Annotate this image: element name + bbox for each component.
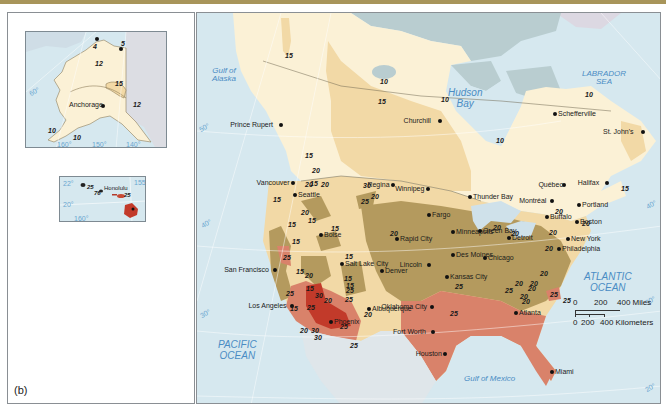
- city-dot: [273, 268, 277, 272]
- isoline-value: 15: [306, 285, 314, 292]
- isoline-value: 15: [621, 185, 629, 192]
- isoline-value: 15: [285, 52, 293, 59]
- isoline-value: 20: [305, 272, 313, 279]
- city-label: Fargo: [432, 211, 450, 218]
- isoline-value: 25: [283, 254, 291, 261]
- isoline-value: 20: [300, 327, 308, 334]
- city-label-honolulu: Honolulu: [104, 185, 128, 191]
- isoline-value: 10: [441, 96, 449, 103]
- isoline-value: 20: [321, 181, 329, 188]
- isoline-value: 25: [307, 304, 315, 311]
- isoline-value: 25: [455, 283, 463, 290]
- isoline-value: 25: [550, 291, 558, 298]
- city-dot: [483, 256, 487, 260]
- scale-km-0: 0: [573, 318, 577, 327]
- city-dot: [427, 263, 431, 267]
- city-label: San Francisco: [224, 266, 269, 273]
- city-label: Schefferville: [558, 110, 596, 117]
- isoline-value: 20: [371, 193, 379, 200]
- isoline-value: 25: [361, 198, 369, 205]
- hawaii-inset-map: 22° 20° 160° 155° 25 76 25 Honolulu: [59, 176, 146, 222]
- city-label: Vancouver: [257, 179, 290, 186]
- city-label: Prince Rupert: [230, 121, 273, 128]
- isoline-value: 10: [585, 91, 593, 98]
- isoline-value: 12: [95, 60, 103, 67]
- city-label: Los Angeles: [248, 302, 286, 309]
- isoline-value: 25: [450, 310, 458, 317]
- isoline-value: 30: [363, 182, 371, 189]
- isoline-value: 25: [286, 290, 294, 297]
- isoline-value: 15: [310, 180, 318, 187]
- city-label: Québec: [538, 181, 563, 188]
- city-dot: [443, 352, 447, 356]
- city-dot: [605, 181, 609, 185]
- isoline-value: 76: [94, 190, 101, 196]
- isoline-value: 20: [545, 245, 553, 252]
- isoline-value: 20: [364, 311, 372, 318]
- city-dot: [380, 269, 384, 273]
- city-dot: [553, 112, 557, 116]
- isoline-value: 20: [522, 298, 530, 305]
- isoline-value: 25: [87, 184, 94, 190]
- isoline-value: 25: [563, 297, 571, 304]
- city-label: St. John's: [603, 128, 634, 135]
- scale-miles-400: 400 Miles: [617, 298, 651, 307]
- city-dot: [431, 330, 435, 334]
- isoline-value: 15: [290, 305, 298, 312]
- city-label: Rapid City: [400, 235, 432, 242]
- isoline-value: 15: [344, 275, 352, 282]
- water-label-hudson-bay: HudsonBay: [448, 88, 482, 109]
- water-label-atlantic-ocean: ATLANTICOCEAN: [584, 272, 632, 293]
- isoline-value: 30: [314, 334, 322, 341]
- isoline-value: 20: [540, 270, 548, 277]
- city-label: Salt Lake City: [345, 260, 388, 267]
- isoline-value: 15: [273, 196, 281, 203]
- isoline-value: 15: [305, 152, 313, 159]
- isoline-value: 20: [582, 220, 590, 227]
- isoline-value: 25: [345, 296, 353, 303]
- scale-line-miles: [575, 310, 620, 311]
- isoline-value: 10: [496, 137, 504, 144]
- city-dot: [557, 247, 561, 251]
- isoline-value: 15: [378, 98, 386, 105]
- city-label: Montréal: [519, 197, 546, 204]
- city-dot: [550, 370, 554, 374]
- isoline-value: 20: [390, 230, 398, 237]
- city-dot: [319, 233, 323, 237]
- city-label: Thunder Bay: [473, 193, 513, 200]
- city-label: Miami: [555, 368, 574, 375]
- city-dot: [430, 305, 434, 309]
- isoline-value: 30: [311, 327, 319, 334]
- water-label-pacific-ocean: PACIFICOCEAN: [218, 340, 257, 361]
- water-label-gulf-of-mexico: Gulf of Mexico: [464, 375, 515, 383]
- isoline-value: 20: [324, 297, 332, 304]
- city-dot: [395, 237, 399, 241]
- longitude-label: 140°: [126, 141, 140, 148]
- isoline-value: 5: [121, 40, 125, 47]
- city-dot: [445, 275, 449, 279]
- isoline-value: 15: [331, 225, 339, 232]
- scale-miles-0: 0: [573, 298, 577, 307]
- city-label: Denver: [385, 267, 408, 274]
- longitude-label: 160°: [74, 215, 88, 222]
- isoline-value: 15: [308, 217, 316, 224]
- scale-tick: [575, 310, 576, 317]
- isoline-value: 15: [115, 80, 123, 87]
- isoline-value: 25: [346, 287, 354, 294]
- isoline-value: 20: [515, 280, 523, 287]
- city-dot: [119, 47, 123, 51]
- city-dot: [279, 123, 283, 127]
- isoline-value: 25: [124, 192, 131, 198]
- isoline-value: 20: [301, 209, 309, 216]
- city-label-anchorage: Anchorage: [69, 101, 103, 108]
- city-label: Halifax: [578, 179, 599, 186]
- panel-label: (b): [14, 384, 27, 396]
- city-dot: [426, 187, 430, 191]
- city-dot: [427, 213, 431, 217]
- city-dot: [291, 181, 295, 185]
- city-label: Kansas City: [450, 273, 487, 280]
- isoline-value: 15: [292, 238, 300, 245]
- city-dot: [550, 199, 554, 203]
- city-dot: [451, 253, 455, 257]
- city-dot: [545, 215, 549, 219]
